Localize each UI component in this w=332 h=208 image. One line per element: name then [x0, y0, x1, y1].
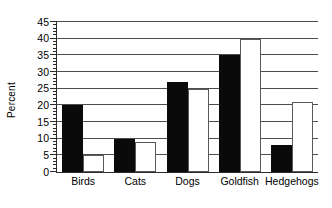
y-tick-major [50, 138, 57, 139]
y-tick-minor [53, 64, 57, 65]
y-tick-minor [53, 158, 57, 159]
y-axis-title: Percent [4, 54, 18, 146]
y-tick-major [50, 38, 57, 39]
y-tick-minor [53, 34, 57, 35]
y-tick-major [50, 154, 57, 155]
y-tick-minor [53, 148, 57, 149]
bar-cats-series-black [114, 139, 135, 172]
x-tick-label: Birds [71, 176, 95, 187]
plot-area: 051015202530354045 [57, 22, 318, 172]
y-tick-minor [53, 61, 57, 62]
y-tick-minor [53, 168, 57, 169]
y-tick-minor [53, 144, 57, 145]
y-tick-minor [53, 84, 57, 85]
bar-chart: Percent 051015202530354045 BirdsCatsDogs… [0, 0, 332, 208]
y-tick-minor [53, 141, 57, 142]
y-tick-major [50, 104, 57, 105]
y-tick-major [50, 171, 57, 172]
y-tick-label: 0 [43, 167, 49, 178]
y-tick-minor [53, 124, 57, 125]
y-tick-major [50, 121, 57, 122]
bar-dogs-series-white [188, 89, 209, 172]
y-tick-minor [53, 108, 57, 109]
y-tick-label: 25 [37, 83, 49, 94]
y-tick-label: 20 [37, 100, 49, 111]
gridline [57, 21, 318, 22]
bar-goldfish-series-white [240, 39, 261, 172]
y-tick-minor [53, 68, 57, 69]
bar-hedgehogs-series-black [271, 145, 292, 172]
y-tick-minor [53, 114, 57, 115]
y-tick-minor [53, 81, 57, 82]
x-tick-label: Hedgehogs [265, 176, 319, 187]
y-tick-minor [53, 131, 57, 132]
y-tick-minor [53, 41, 57, 42]
x-tick-label: Goldfish [220, 176, 259, 187]
y-tick-minor [53, 128, 57, 129]
y-tick-major [50, 88, 57, 89]
y-tick-major [50, 54, 57, 55]
bar-birds-series-white [83, 155, 104, 172]
y-tick-minor [53, 164, 57, 165]
y-tick-major [50, 21, 57, 22]
gridline [57, 71, 318, 72]
y-tick-label: 45 [37, 17, 49, 28]
x-axis-line [56, 172, 318, 173]
y-tick-major [50, 71, 57, 72]
y-tick-minor [53, 24, 57, 25]
y-tick-minor [53, 151, 57, 152]
y-tick-minor [53, 51, 57, 52]
x-tick-label: Dogs [175, 176, 200, 187]
y-tick-minor [53, 58, 57, 59]
gridline [57, 38, 318, 39]
y-tick-label: 40 [37, 33, 49, 44]
y-tick-minor [53, 48, 57, 49]
y-tick-minor [53, 98, 57, 99]
y-tick-minor [53, 134, 57, 135]
bar-goldfish-series-black [219, 55, 240, 172]
y-tick-minor [53, 91, 57, 92]
y-tick-label: 35 [37, 50, 49, 61]
gridline [57, 54, 318, 55]
x-tick-label: Cats [125, 176, 147, 187]
y-tick-label: 10 [37, 133, 49, 144]
y-tick-minor [53, 78, 57, 79]
y-tick-label: 15 [37, 117, 49, 128]
y-tick-minor [53, 31, 57, 32]
y-tick-minor [53, 94, 57, 95]
y-tick-minor [53, 101, 57, 102]
y-tick-label: 5 [43, 150, 49, 161]
y-tick-minor [53, 74, 57, 75]
bar-cats-series-white [135, 142, 156, 172]
y-tick-minor [53, 111, 57, 112]
y-tick-minor [53, 118, 57, 119]
bar-dogs-series-black [167, 82, 188, 172]
y-tick-label: 30 [37, 67, 49, 78]
y-tick-minor [53, 44, 57, 45]
bar-birds-series-black [62, 105, 83, 172]
y-tick-minor [53, 161, 57, 162]
bar-hedgehogs-series-white [292, 102, 313, 172]
y-tick-minor [53, 28, 57, 29]
